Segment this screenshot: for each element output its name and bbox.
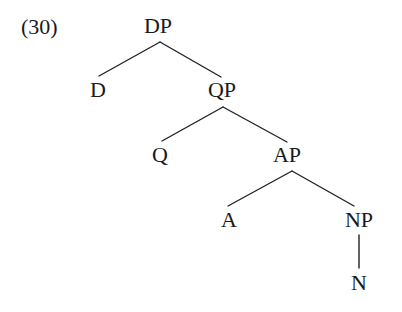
node-d: D — [90, 79, 106, 101]
node-n: N — [351, 272, 367, 294]
edge-dp-qp — [160, 42, 221, 77]
node-qp: QP — [208, 79, 236, 101]
syntax-tree-diagram: (30) DP D QP Q AP A NP N — [0, 0, 402, 312]
node-q: Q — [152, 144, 168, 166]
node-np: NP — [345, 209, 373, 231]
edge-qp-ap — [223, 107, 287, 142]
edge-dp-d — [99, 42, 160, 76]
edge-qp-q — [162, 107, 223, 141]
node-dp: DP — [144, 15, 172, 37]
node-ap: AP — [273, 144, 301, 166]
edge-ap-np — [292, 171, 354, 206]
edge-ap-a — [228, 171, 292, 206]
node-a: A — [221, 209, 237, 231]
tree-edges — [0, 0, 402, 312]
